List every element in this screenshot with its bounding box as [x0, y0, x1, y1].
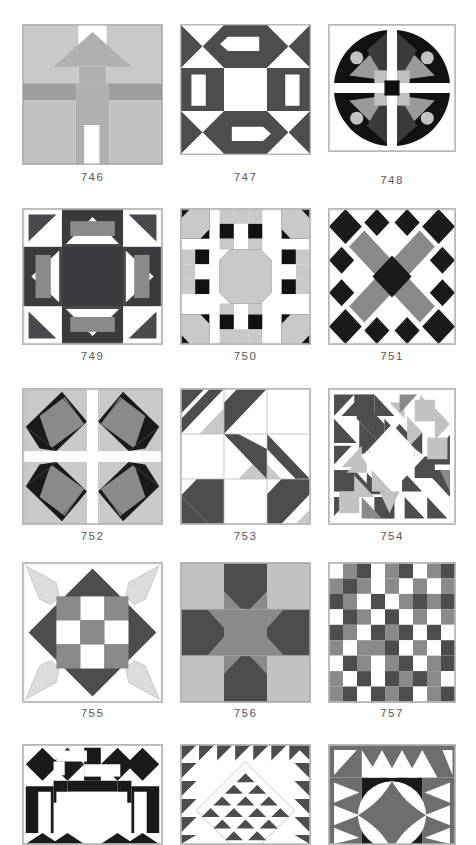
- block-caption-756: 756: [180, 707, 311, 719]
- block-caption-751: 751: [328, 350, 456, 362]
- block-cell-759: [180, 744, 311, 845]
- block-cell-757: 757: [328, 562, 456, 703]
- block-760[interactable]: [328, 744, 456, 845]
- block-caption-754: 754: [328, 530, 456, 542]
- block-caption-752: 752: [22, 530, 163, 542]
- block-752-art: [23, 389, 162, 524]
- block-cell-753: 753: [180, 388, 311, 525]
- block-747-art: [181, 25, 310, 154]
- block-759[interactable]: [180, 744, 311, 845]
- block-cell-749: 749: [22, 208, 163, 345]
- block-caption-757: 757: [328, 707, 456, 719]
- block-caption-755: 755: [22, 707, 163, 719]
- block-cell-760: [328, 744, 456, 845]
- block-759-art: [181, 745, 310, 844]
- block-752[interactable]: [22, 388, 163, 525]
- block-caption-748: 748: [328, 174, 456, 186]
- block-cell-758: [22, 744, 163, 845]
- block-754-art: [329, 389, 455, 524]
- block-caption-747: 747: [180, 171, 311, 183]
- block-751-art: [329, 209, 455, 344]
- block-760-art: [329, 745, 455, 844]
- block-747[interactable]: [180, 24, 311, 155]
- block-cell-750: 750: [180, 208, 311, 345]
- block-750[interactable]: [180, 208, 311, 345]
- block-755[interactable]: [22, 562, 163, 703]
- block-cell-755: 755: [22, 562, 163, 703]
- block-751[interactable]: [328, 208, 456, 345]
- block-cell-747: 747: [180, 24, 311, 155]
- block-cell-754: 754: [328, 388, 456, 525]
- block-cell-752: 752: [22, 388, 163, 525]
- catalog-page: 746: [0, 0, 476, 845]
- block-755-art: [23, 563, 162, 702]
- block-grid: 746: [0, 0, 476, 845]
- block-caption-750: 750: [180, 350, 311, 362]
- block-cell-746: 746: [22, 24, 163, 165]
- block-753-art: [181, 389, 310, 524]
- block-754[interactable]: [328, 388, 456, 525]
- block-756-art: [181, 563, 310, 702]
- block-748[interactable]: [328, 24, 456, 152]
- block-746-art: [23, 25, 162, 164]
- block-753[interactable]: [180, 388, 311, 525]
- block-749[interactable]: [22, 208, 163, 345]
- block-746[interactable]: [22, 24, 163, 165]
- block-756[interactable]: [180, 562, 311, 703]
- block-749-art: [23, 209, 162, 344]
- block-caption-746: 746: [22, 171, 163, 183]
- block-750-art: [181, 209, 310, 344]
- block-cell-756: 756: [180, 562, 311, 703]
- block-caption-753: 753: [180, 530, 311, 542]
- block-cell-751: 751: [328, 208, 456, 345]
- block-caption-749: 749: [22, 350, 163, 362]
- block-757-art: [329, 563, 455, 702]
- block-748-art: [329, 25, 455, 151]
- block-cell-748: 748: [328, 24, 456, 152]
- block-758-art: [23, 745, 162, 844]
- block-758[interactable]: [22, 744, 163, 845]
- block-757[interactable]: [328, 562, 456, 703]
